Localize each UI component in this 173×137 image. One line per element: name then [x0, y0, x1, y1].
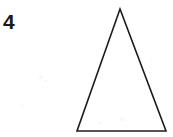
isosceles-triangle-shape [77, 9, 166, 131]
triangle-diagram [0, 0, 173, 137]
figure-canvas: 4 [0, 0, 173, 137]
